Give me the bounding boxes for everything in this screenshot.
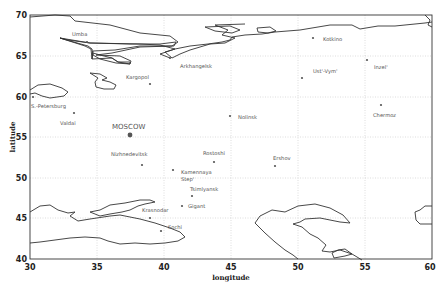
marker-kargopol (149, 83, 151, 85)
grid-lines (30, 15, 432, 259)
y-axis-label: latitude (8, 121, 17, 152)
label-nolinsk: Nolinsk (238, 114, 257, 120)
marker-ershov (274, 165, 276, 167)
x-tick-35: 35 (91, 263, 103, 272)
x-tick-60: 60 (424, 263, 436, 272)
label-inzel: Inzel' (374, 64, 388, 70)
y-tick-45: 45 (16, 214, 28, 223)
lake-onega (90, 73, 116, 89)
label-kamennaya: Kamennaya (181, 169, 212, 176)
marker-tsimlyansk (191, 195, 193, 197)
label-sochi: Sochi (168, 224, 182, 230)
label-moscow: MOSCOW (112, 123, 145, 131)
gulf-of-finland (30, 84, 68, 98)
label-krasnodar: Krasnodar (142, 207, 169, 213)
marker-inzel (366, 59, 368, 61)
label-rostoshi: Rostoshi (203, 150, 225, 156)
marker-krasnodar (149, 217, 151, 219)
kanin-peninsula (205, 26, 240, 33)
label-ust-vym: Ust'-Vym' (313, 68, 338, 75)
marker-rostoshi (213, 161, 215, 163)
marker-chermoz (380, 104, 382, 106)
marker-nizhnedevitsk (141, 164, 143, 166)
marker-st-petersburg (32, 96, 34, 98)
label-ershov: Ershov (273, 155, 291, 161)
label-gigant: Gigant (188, 203, 205, 210)
x-tick-45: 45 (225, 263, 237, 272)
marker-gigant (181, 205, 183, 207)
label-st-petersburg: S.-Petersburg (31, 103, 66, 110)
label-nizhnedevitsk: Nizhnedevitsk (111, 151, 148, 157)
arctic-coast-east (160, 22, 432, 58)
marker-sochi (160, 230, 162, 232)
marker-nolinsk (229, 115, 231, 117)
marker-umba (86, 41, 88, 43)
y-tick-40: 40 (16, 255, 28, 264)
map-figure: 30 35 40 45 50 55 60 40 45 50 55 60 65 7… (0, 0, 446, 287)
aral-sea-edge (415, 206, 432, 224)
label-tsimlyansk: Tsimlyansk (189, 186, 218, 193)
x-tick-labels: 30 35 40 45 50 55 60 (24, 263, 436, 272)
x-axis-label: longitude (212, 273, 250, 282)
y-tick-50: 50 (16, 174, 28, 183)
marker-kotkino (312, 37, 314, 39)
x-tick-50: 50 (292, 263, 304, 272)
x-tick-30: 30 (24, 263, 36, 272)
pechora-inlet (257, 27, 276, 33)
label-step: Step' (181, 176, 194, 183)
label-umba: Umba (72, 31, 87, 37)
y-tick-60: 60 (16, 93, 28, 102)
city-labels: Umba Arkhangelsk Kargopol S.-Petersburg … (31, 31, 396, 230)
marker-ust-vym (301, 77, 303, 79)
marker-arkhangelsk (169, 57, 171, 59)
caspian-coast-south (255, 223, 298, 259)
y-tick-labels: 40 45 50 55 60 65 70 (16, 11, 28, 264)
label-kargopol: Kargopol (126, 74, 149, 81)
label-arkhangelsk: Arkhangelsk (180, 63, 212, 70)
x-tick-40: 40 (158, 263, 170, 272)
label-kotkino: Kotkino (323, 36, 342, 42)
novaya-zemlya-edge (425, 15, 432, 27)
label-chermoz: Chermoz (373, 112, 396, 118)
y-tick-65: 65 (16, 52, 28, 61)
label-valdai: Valdai (60, 120, 76, 126)
marker-valdai (73, 112, 75, 114)
y-tick-55: 55 (16, 133, 28, 142)
caspian-west (255, 204, 362, 260)
marker-moscow (128, 133, 133, 138)
x-tick-55: 55 (359, 263, 371, 272)
white-sea (60, 38, 176, 64)
marker-kamennaya-step (172, 169, 174, 171)
y-tick-70: 70 (16, 11, 28, 20)
barents-coast (30, 15, 245, 64)
